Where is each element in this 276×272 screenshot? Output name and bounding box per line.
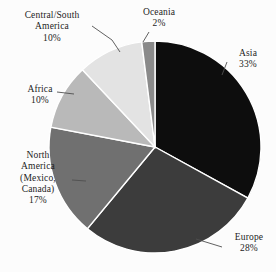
slice-label-europe: Europe 28% <box>224 232 274 255</box>
slice-value-north-america: 17% <box>2 195 74 206</box>
slice-label-oceania: Oceania 2% <box>131 7 187 30</box>
slice-label-asia: Asia 33% <box>226 48 270 71</box>
slice-label-central-south-america-line1: Central/South <box>6 10 98 21</box>
slice-label-asia-name: Asia <box>226 48 270 59</box>
slice-label-north-america-line2: America <box>2 161 74 172</box>
slice-label-central-south-america: Central/South America 10% <box>6 10 98 44</box>
slice-value-europe: 28% <box>224 243 274 254</box>
slice-label-north-america-line1: North <box>2 150 74 161</box>
slice-value-africa: 10% <box>14 95 66 106</box>
pie-slices <box>49 41 261 253</box>
slice-value-central-south-america: 10% <box>6 33 98 44</box>
slice-label-north-america: North America (Mexico, Canada) 17% <box>2 150 74 206</box>
slice-label-central-south-america-line2: America <box>6 21 98 32</box>
slice-label-north-america-line4: Canada) <box>2 184 74 195</box>
slice-value-asia: 33% <box>226 59 270 70</box>
slice-label-africa: Africa 10% <box>14 84 66 107</box>
slice-label-north-america-line3: (Mexico, <box>2 173 74 184</box>
slice-label-oceania-name: Oceania <box>131 7 187 18</box>
slice-value-oceania: 2% <box>131 18 187 29</box>
slice-label-africa-name: Africa <box>14 84 66 95</box>
slice-label-europe-name: Europe <box>224 232 274 243</box>
leader-line-oceania <box>143 32 149 42</box>
pie-chart-figure: Central/South America 10% Oceania 2% Asi… <box>0 0 276 272</box>
